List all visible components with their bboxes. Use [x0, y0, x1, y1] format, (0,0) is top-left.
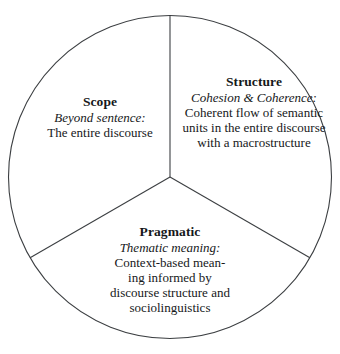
sector-structure: Structure Cohesion & Coherence: Coherent…: [182, 74, 326, 150]
sector-scope-title: Scope: [26, 94, 174, 110]
sector-scope: Scope Beyond sentence: The entire discou…: [26, 94, 174, 140]
sector-scope-subtitle: Beyond sentence:: [26, 110, 174, 125]
discourse-venn-figure: Scope Beyond sentence: The entire discou…: [0, 0, 340, 354]
sector-structure-body: Coherent flow of semantic units in the e…: [182, 105, 326, 150]
sector-pragmatic-body: Context-based mean- ing informed by disc…: [84, 255, 256, 315]
sector-structure-title: Structure: [182, 74, 326, 90]
sector-scope-body: The entire discourse: [26, 125, 174, 140]
sector-pragmatic: Pragmatic Thematic meaning: Context-base…: [84, 224, 256, 315]
sector-structure-subtitle: Cohesion & Coherence:: [182, 90, 326, 105]
sector-pragmatic-title: Pragmatic: [84, 224, 256, 240]
sector-pragmatic-subtitle: Thematic meaning:: [84, 240, 256, 255]
